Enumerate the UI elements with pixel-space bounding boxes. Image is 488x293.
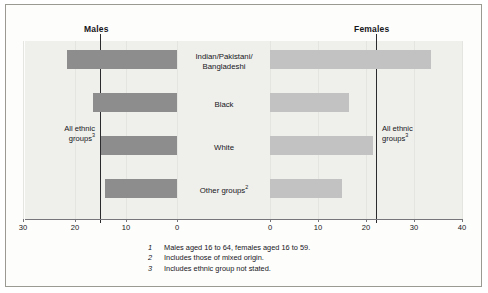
reference-label-males-footnote: 3 bbox=[92, 132, 95, 138]
footnote-text-2: Includes those of mixed origin. bbox=[164, 253, 264, 263]
tick-right-0 bbox=[270, 219, 271, 222]
gridline-right-40 bbox=[462, 41, 463, 219]
category-label-other-groups: Other groups2 bbox=[178, 186, 270, 196]
category-label-footnote: 2 bbox=[245, 184, 248, 190]
footnote-row-1: 1 Males aged 16 to 64, females aged 16 t… bbox=[148, 243, 310, 253]
tick-left-0 bbox=[177, 219, 178, 222]
chart-figure: Males Females All ethnic groups3 All eth… bbox=[0, 0, 488, 293]
bar-male-white bbox=[101, 136, 177, 155]
reference-label-males-line2: groups bbox=[69, 134, 92, 143]
footnote-text-1: Males aged 16 to 64, females aged 16 to … bbox=[164, 243, 310, 253]
bar-female-black bbox=[270, 93, 349, 112]
reference-label-females-footnote: 3 bbox=[405, 132, 408, 138]
bar-male-black bbox=[93, 93, 177, 112]
tick-label-right-40: 40 bbox=[451, 223, 473, 232]
footnote-number-1: 1 bbox=[148, 243, 164, 253]
category-label-line2: Bangladeshi bbox=[203, 62, 246, 71]
reference-label-males: All ethnic groups3 bbox=[33, 124, 95, 143]
tick-label-left-0: 0 bbox=[166, 223, 188, 232]
bar-female-other-groups bbox=[270, 179, 342, 198]
tick-left-20 bbox=[75, 219, 76, 222]
footnotes: 1 Males aged 16 to 64, females aged 16 t… bbox=[148, 243, 310, 274]
footnote-row-2: 2 Includes those of mixed origin. bbox=[148, 253, 310, 263]
footnote-number-2: 2 bbox=[148, 253, 164, 263]
tick-right-10 bbox=[318, 219, 319, 222]
tick-left-30 bbox=[23, 219, 24, 222]
tick-label-left-10: 10 bbox=[115, 223, 137, 232]
category-label-line1: Indian/Pakistani/ bbox=[195, 52, 252, 61]
category-label-indian-pakistani-bangladeshi: Indian/Pakistani/ Bangladeshi bbox=[178, 52, 270, 72]
tick-label-right-20: 20 bbox=[355, 223, 377, 232]
category-label-line1: White bbox=[214, 143, 234, 152]
x-axis-line bbox=[25, 219, 463, 220]
tick-label-left-20: 20 bbox=[64, 223, 86, 232]
bar-male-other-groups bbox=[105, 179, 177, 198]
tick-left-10 bbox=[126, 219, 127, 222]
footnote-row-3: 3 Includes ethnic group not stated. bbox=[148, 264, 310, 274]
category-label-black: Black bbox=[178, 100, 270, 110]
bar-female-white bbox=[270, 136, 373, 155]
reference-label-males-line1: All ethnic bbox=[64, 124, 95, 133]
tick-label-left-30: 30 bbox=[12, 223, 34, 232]
tick-right-20 bbox=[366, 219, 367, 222]
bar-female-indian-pakistani-bangladeshi bbox=[270, 50, 431, 69]
gridline-left-30 bbox=[23, 41, 24, 219]
tick-label-right-30: 30 bbox=[403, 223, 425, 232]
series-header-males: Males bbox=[84, 24, 109, 34]
tick-label-right-0: 0 bbox=[259, 223, 281, 232]
tick-right-40 bbox=[462, 219, 463, 222]
series-header-females: Females bbox=[354, 24, 389, 34]
reference-label-females: All ethnic groups3 bbox=[382, 124, 446, 143]
footnote-text-3: Includes ethnic group not stated. bbox=[164, 264, 271, 274]
footnote-number-3: 3 bbox=[148, 264, 164, 274]
category-label-white: White bbox=[178, 143, 270, 153]
reference-label-females-line2: groups bbox=[382, 134, 405, 143]
tick-right-30 bbox=[414, 219, 415, 222]
tick-label-right-10: 10 bbox=[307, 223, 329, 232]
bar-male-indian-pakistani-bangladeshi bbox=[67, 50, 177, 69]
category-label-line1: Other groups bbox=[200, 186, 246, 195]
category-label-line1: Black bbox=[214, 100, 233, 109]
